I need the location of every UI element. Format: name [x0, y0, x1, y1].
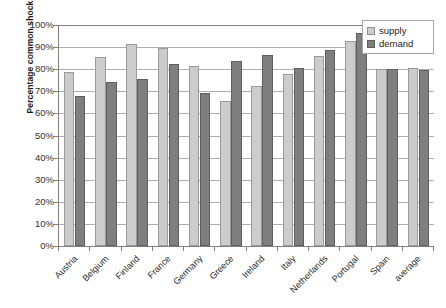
chart-legend: supply demand [362, 20, 434, 54]
bar-demand-spain [387, 69, 398, 246]
y-tick-label: 0% [12, 241, 54, 251]
bar-group [403, 25, 434, 246]
bar-demand-average [419, 70, 430, 246]
bar-supply-portugal [345, 41, 356, 246]
y-tick-label: 20% [12, 197, 54, 207]
x-tick-mark [433, 246, 434, 251]
x-tick-mark [89, 246, 90, 251]
bar-supply-germany [189, 66, 200, 246]
x-tick-label: Greece [135, 253, 235, 308]
bar-supply-spain [376, 69, 387, 246]
y-tick-label: 10% [12, 219, 54, 229]
x-tick-mark [277, 246, 278, 251]
x-tick-mark [402, 246, 403, 251]
x-axis-ticks [58, 246, 434, 252]
bar-supply-netherlands [314, 56, 325, 246]
x-tick-label: Portugal [260, 253, 360, 308]
bar-group [247, 25, 278, 246]
legend-item-demand: demand [367, 37, 429, 50]
bar-group [340, 25, 371, 246]
x-tick-label: Netherlands [229, 253, 329, 308]
plot-area [58, 25, 434, 247]
x-tick-mark [58, 246, 59, 251]
x-tick-mark [183, 246, 184, 251]
bar-demand-portugal [356, 33, 367, 246]
x-tick-label: Germany [104, 253, 204, 308]
x-tick-mark [371, 246, 372, 251]
bar-demand-italy [294, 68, 305, 246]
x-tick-mark [308, 246, 309, 251]
bar-supply-italy [283, 74, 294, 246]
x-tick-label: Finland [41, 253, 141, 308]
bar-group [372, 25, 403, 246]
bar-group [278, 25, 309, 246]
bar-demand-austria [75, 96, 86, 246]
x-tick-mark [214, 246, 215, 251]
y-tick-label: 30% [12, 175, 54, 185]
bar-group [90, 25, 121, 246]
x-tick-label: Italy [198, 253, 298, 308]
bar-demand-netherlands [325, 50, 336, 246]
x-tick-mark [152, 246, 153, 251]
bar-group [153, 25, 184, 246]
bar-supply-greece [220, 101, 231, 246]
legend-swatch-supply-icon [367, 27, 375, 35]
bar-group [122, 25, 153, 246]
legend-label-supply: supply [379, 26, 406, 36]
x-tick-label: Austria [0, 253, 79, 308]
x-tick-mark [339, 246, 340, 251]
bar-demand-germany [200, 93, 211, 246]
bar-demand-belgium [106, 82, 117, 246]
bars-layer [59, 25, 434, 246]
bar-supply-france [158, 48, 169, 246]
x-tick-mark [246, 246, 247, 251]
bar-group [309, 25, 340, 246]
x-tick-label: average [323, 253, 423, 308]
bar-demand-ireland [262, 55, 273, 246]
bar-demand-france [169, 64, 180, 246]
x-tick-label: France [73, 253, 173, 308]
bar-supply-belgium [95, 57, 106, 246]
bar-group [184, 25, 215, 246]
legend-label-demand: demand [379, 39, 413, 49]
bar-demand-greece [231, 61, 242, 246]
bar-supply-finland [126, 44, 137, 246]
bar-group [59, 25, 90, 246]
x-tick-mark [121, 246, 122, 251]
bar-group [215, 25, 246, 246]
bar-supply-ireland [251, 86, 262, 246]
y-axis-title: Percentage common shock [25, 0, 35, 147]
legend-swatch-demand-icon [367, 40, 375, 48]
y-tick-label: 40% [12, 153, 54, 163]
bar-demand-finland [137, 79, 148, 246]
x-tick-label: Spain [291, 253, 391, 308]
legend-item-supply: supply [367, 24, 429, 37]
x-tick-label: Ireland [166, 253, 266, 308]
bar-supply-average [408, 68, 419, 246]
bar-chart: Percentage common shock 100%90%80%70%60%… [0, 0, 446, 308]
x-tick-label: Belgium [10, 253, 110, 308]
bar-supply-austria [64, 72, 75, 246]
